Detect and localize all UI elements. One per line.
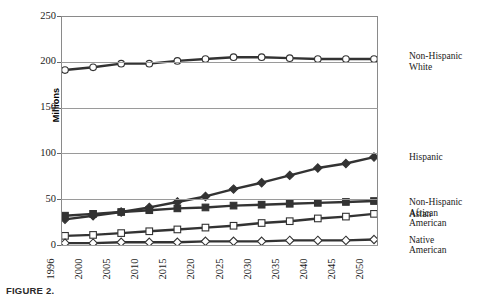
x-tick-label: 2035 — [270, 249, 281, 289]
data-point — [90, 64, 97, 71]
plot-area — [61, 16, 378, 245]
x-tick-label: 2025 — [214, 249, 225, 289]
y-tick-label: 250 — [30, 11, 56, 22]
data-point — [342, 159, 350, 167]
y-tick-mark — [57, 108, 61, 109]
series-native-american — [61, 235, 378, 245]
data-point — [258, 54, 265, 61]
chart-legend: Non-Hispanic WhiteHispanicNon-Hispanic A… — [409, 0, 486, 294]
data-point — [230, 202, 237, 209]
series-non-hispanic-african-american — [62, 198, 378, 219]
data-point — [230, 54, 237, 61]
legend-entry-asian: Asian — [409, 209, 431, 220]
figure-caption: FIGURE 2. — [6, 285, 54, 294]
series-non-hispanic-white — [62, 54, 378, 73]
data-point — [286, 55, 293, 62]
data-point — [286, 171, 294, 179]
data-point — [90, 232, 97, 239]
data-point — [202, 224, 209, 231]
series-asian — [62, 211, 378, 240]
y-tick-label: 50 — [30, 194, 56, 205]
data-point — [118, 209, 125, 216]
x-tick-label: 2020 — [185, 249, 196, 289]
x-tick-label: 2050 — [354, 249, 365, 289]
series-line — [65, 157, 374, 219]
plot-frame-left — [61, 16, 62, 245]
data-point — [62, 67, 69, 74]
x-tick-label: 2030 — [242, 249, 253, 289]
data-series-layer — [61, 16, 378, 245]
x-tick-label: 1996 — [45, 249, 56, 289]
data-point — [202, 204, 209, 211]
data-point — [343, 213, 350, 220]
data-point — [174, 226, 181, 233]
y-tick-label: 200 — [30, 56, 56, 67]
y-tick-label: 150 — [30, 102, 56, 113]
data-point — [145, 238, 153, 245]
data-point — [230, 222, 237, 229]
data-point — [258, 201, 265, 208]
series-line — [65, 214, 374, 236]
x-tick-label: 2045 — [326, 249, 337, 289]
gridline — [61, 199, 378, 200]
data-point — [117, 238, 125, 245]
data-point — [90, 211, 97, 218]
series-line — [65, 201, 374, 216]
plot-frame-top — [61, 16, 378, 17]
data-point — [257, 179, 265, 187]
data-point — [62, 233, 69, 240]
x-tick-label: 2000 — [73, 249, 84, 289]
x-tick-label: 2015 — [157, 249, 168, 289]
series-line — [65, 57, 374, 70]
data-point — [146, 228, 153, 235]
data-point — [201, 237, 209, 245]
x-tick-label: 2040 — [298, 249, 309, 289]
plot-frame-right — [377, 16, 378, 245]
legend-entry-hispanic: Hispanic — [409, 152, 443, 163]
series-line — [65, 240, 374, 244]
data-point — [229, 237, 237, 245]
data-point — [315, 215, 322, 222]
x-tick-label: 2010 — [129, 249, 140, 289]
data-point — [315, 200, 322, 207]
data-point — [258, 220, 265, 227]
x-tick-label: 2005 — [101, 249, 112, 289]
gridline — [61, 108, 378, 109]
y-tick-mark — [57, 199, 61, 200]
data-point — [146, 207, 153, 214]
data-point — [229, 185, 237, 193]
data-point — [257, 237, 265, 245]
data-point — [314, 236, 322, 244]
data-point — [342, 236, 350, 244]
data-point — [174, 205, 181, 212]
y-tick-mark — [57, 62, 61, 63]
y-tick-mark — [57, 153, 61, 154]
x-axis-tick-labels: 1996200020052010201520202025203020352040… — [61, 245, 378, 294]
data-point — [62, 212, 69, 219]
y-tick-mark — [57, 16, 61, 17]
data-point — [173, 238, 181, 245]
gridline — [61, 62, 378, 63]
gridline — [61, 153, 378, 154]
data-point — [286, 200, 293, 207]
data-point — [286, 218, 293, 225]
data-point — [118, 230, 125, 237]
legend-entry-non-hispanic-white: Non-Hispanic White — [409, 51, 462, 72]
data-point — [286, 236, 294, 244]
legend-entry-native-american: Native American — [409, 235, 446, 256]
data-point — [314, 164, 322, 172]
population-projection-figure: Millions 050100150200250 199620002005201… — [0, 0, 486, 294]
y-tick-label: 100 — [30, 148, 56, 159]
